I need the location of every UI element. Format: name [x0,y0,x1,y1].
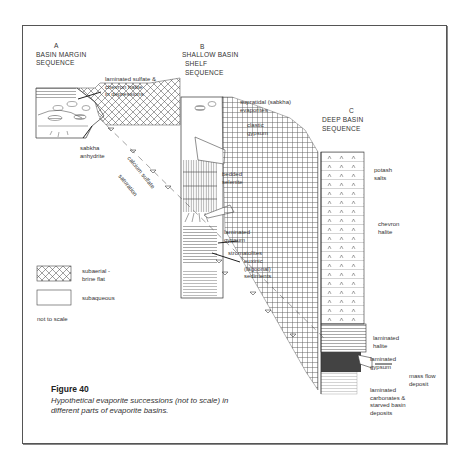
label-mass-flow-deposit: mass flow deposit [409,373,436,388]
column-a-letter: A [54,42,59,50]
column-b-letter: B [200,43,205,51]
label-chevron-halite: chevron halite [378,221,399,236]
column-a-title: BASIN MARGIN [36,51,86,59]
label-clastic-gypsum: clastic gypsum [247,122,268,137]
label-stromatolites: stromatolites [228,250,262,258]
figure-title: Figure 40 [51,384,89,394]
legend-blank-swatch [37,290,71,305]
label-laminated-carbonates: laminated carbonates & starved basin dep… [370,387,406,417]
label-laminated-gypsum-b: laminated gypsum [224,229,250,244]
label-bedded-selenite: bedded selenite [222,171,243,186]
label-laminated-sulfate: laminated sulfate & chevron halite in de… [105,76,156,99]
label-supratidal-evaporites: supratidal (sabkha) evaporites [240,99,291,114]
legend-subaerial-label: subaerial - brine flat [82,268,110,283]
figure-caption: Hypothetical evaporite successions (not … [51,396,251,416]
legend-crosshatch-swatch [37,266,71,281]
legend-subaqueous-label: subaqueous [82,295,115,303]
column-a-subtitle: SEQUENCE [36,59,75,67]
column-b-subtitle-2: SEQUENCE [185,69,224,77]
column-c-subtitle: SEQUENCE [322,125,361,133]
label-laminated-gypsum-c: laminated gypsum [370,356,396,371]
not-to-scale-note: not to scale [37,316,68,324]
column-c-section [321,152,372,394]
column-b-title: SHALLOW BASIN [182,51,238,59]
column-c-title: DEEP BASIN [322,116,363,124]
column-b-subtitle: SHELF [185,60,207,68]
label-potash-salts: potash salts [374,167,392,182]
label-euxinic-sediments: euxinic (lagoonal) sediments [244,258,271,281]
label-laminated-halite: laminated halite [373,335,399,350]
column-c-letter: C [349,107,354,115]
label-sabkha-anhydrite: sabkha anhydrite [80,145,105,160]
